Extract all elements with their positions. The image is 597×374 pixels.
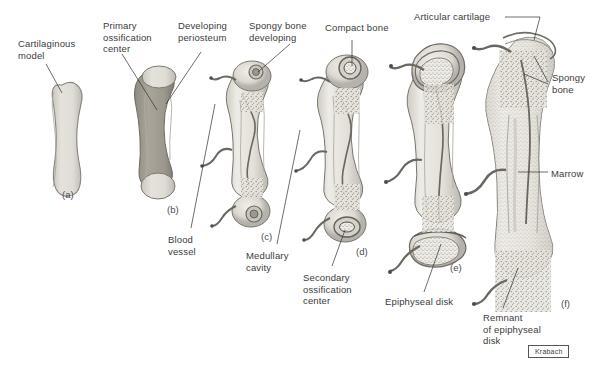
stage-letter-b: (b) xyxy=(167,204,179,215)
label-blood-vessel: Blood vessel xyxy=(168,234,196,257)
label-primary-ossification-center: Primary ossification center xyxy=(103,20,152,55)
stage-a-artwork xyxy=(52,82,82,196)
label-developing-periosteum: Developing periosteum xyxy=(178,20,227,43)
label-spongy-bone: Spongy bone xyxy=(552,72,585,95)
stage-b-artwork xyxy=(135,66,177,199)
stage-letter-d: (d) xyxy=(356,246,368,257)
stage-letter-c: (c) xyxy=(261,231,272,242)
label-epiphyseal-disk: Epiphyseal disk xyxy=(385,296,453,308)
label-remnant-of-epiphyseal-disk: Remnant of epiphyseal disk xyxy=(483,312,541,347)
label-marrow: Marrow xyxy=(551,168,584,180)
stage-e-artwork xyxy=(384,44,466,274)
label-secondary-ossification-center: Secondary ossification center xyxy=(303,272,352,307)
endochondral-ossification-figure: Cartilaginous modelPrimary ossification … xyxy=(0,0,597,374)
label-medullary-cavity: Medullary cavity xyxy=(246,250,289,273)
stage-letter-f: (f) xyxy=(561,298,570,309)
label-compact-bone: Compact bone xyxy=(325,22,389,34)
credit-box: Krabach xyxy=(528,345,569,358)
leader-lines xyxy=(46,17,548,308)
stage-d-artwork xyxy=(294,55,368,242)
stage-letter-e: (e) xyxy=(450,262,462,273)
label-cartilaginous-model: Cartilaginous model xyxy=(18,38,75,61)
label-articular-cartilage: Articular cartilage xyxy=(414,11,490,23)
stage-letter-a: (a) xyxy=(62,189,74,200)
stage-c-artwork xyxy=(200,61,271,228)
label-spongy-bone-developing: Spongy bone developing xyxy=(249,20,307,43)
